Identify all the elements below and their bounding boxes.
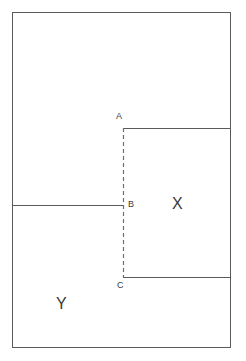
region-label-y: Y bbox=[56, 296, 67, 312]
point-label-b: B bbox=[128, 200, 134, 209]
geometry-figure: A B C X Y bbox=[0, 0, 246, 361]
point-label-a: A bbox=[116, 112, 122, 121]
outer-rectangle bbox=[13, 13, 231, 348]
point-label-c: C bbox=[117, 281, 124, 290]
region-label-x: X bbox=[172, 196, 183, 212]
figure-canvas bbox=[0, 0, 246, 361]
